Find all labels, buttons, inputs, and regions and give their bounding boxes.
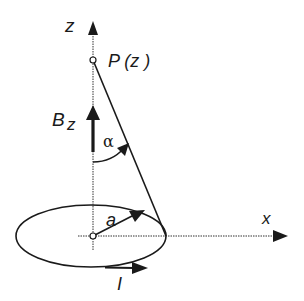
point-p-label: P (z ) <box>108 51 150 71</box>
x-axis-arrow-icon <box>273 230 288 242</box>
current-loop-diagram: z x P (z ) B z α a I <box>0 0 304 301</box>
current-arrow-icon <box>132 262 148 274</box>
alpha-label: α <box>103 132 114 151</box>
radius-label: a <box>106 210 116 230</box>
current-label: I <box>117 274 122 294</box>
x-axis-label: x <box>261 209 271 228</box>
z-axis-label: z <box>64 15 75 36</box>
z-axis-arrow-icon <box>88 21 98 35</box>
bz-vector-arrow-icon <box>86 105 100 120</box>
point-p-marker <box>90 57 96 63</box>
origin-point <box>90 233 96 239</box>
bz-subscript: z <box>66 115 76 134</box>
bz-label: B <box>52 109 65 130</box>
current-arrow-shaft <box>105 268 134 269</box>
angle-arrow-icon <box>117 143 129 156</box>
